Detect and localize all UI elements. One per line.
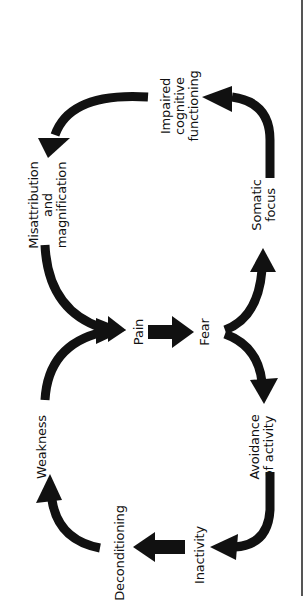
arrow-impaired-to-misattribution (55, 96, 148, 135)
node-pain: Pain (132, 319, 146, 345)
arrowhead-inactivity-decon (133, 532, 155, 562)
arrow-deconditioning-to-weakness (52, 500, 100, 548)
node-avoidance-of-activity: Avoidance of activity (248, 414, 276, 479)
arrow-pain-to-fear-shaft (148, 325, 174, 339)
arrow-fear-to-somatic (225, 270, 262, 330)
arrow-inactivity-to-deconditioning-shaft (153, 540, 185, 554)
arrow-fear-to-avoidance (225, 334, 262, 382)
arrowhead-somatic-impaired (202, 86, 232, 112)
cycle-arrows (0, 0, 308, 610)
node-fear: Fear (198, 318, 212, 345)
node-impaired-cognitive-functioning: Impaired cognitive functioning (159, 70, 201, 141)
arrow-somatic-to-impaired (232, 97, 270, 178)
arrowhead-impaired-misattribution (38, 138, 70, 158)
node-deconditioning: Deconditioning (113, 505, 127, 600)
arrow-misattribution-to-pain (45, 245, 102, 328)
arrowhead-avoidance-inactivity (210, 534, 238, 560)
node-inactivity: Inactivity (193, 526, 207, 584)
node-weakness: Weakness (35, 415, 49, 479)
arrowhead-fear-avoidance (250, 378, 278, 404)
arrowhead-pain-fear (172, 316, 194, 348)
node-misattribution-magnification: Misattribution and magnification (27, 161, 69, 248)
arrow-avoidance-to-inactivity (235, 472, 270, 547)
node-somatic-focus: Somatic focus (250, 179, 278, 230)
arrowhead-fear-somatic (250, 248, 276, 272)
arrow-weakness-to-pain (45, 332, 102, 400)
